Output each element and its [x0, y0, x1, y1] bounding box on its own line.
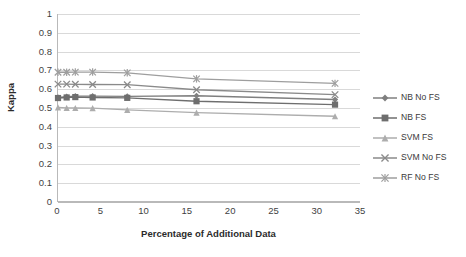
chart-legend: NB No FSNB FSSVM FSSVM No FSRF No FS [372, 88, 466, 188]
x-axis-title: Percentage of Additional Data [57, 228, 360, 239]
y-axis-tick-label: 1 [6, 9, 52, 19]
x-axis-tick-label: 15 [172, 206, 202, 216]
legend-item-label: RF No FS [401, 173, 439, 182]
data-point-marker-square [332, 102, 338, 108]
x-axis-tick-label: 5 [85, 206, 115, 216]
y-axis-title: Kappa [5, 68, 16, 128]
legend-item-label: NB No FS [401, 93, 440, 102]
x-axis-tick-label: 0 [42, 206, 72, 216]
legend-item-label: SVM FS [401, 133, 433, 142]
gridline [58, 202, 360, 203]
y-axis-tick-label: 0.8 [6, 47, 52, 57]
chart-container: 00.10.20.30.40.50.60.70.80.91 Kappa 0510… [0, 0, 466, 257]
legend-item-svm-fs[interactable]: SVM FS [372, 128, 466, 147]
data-point-marker-square [72, 94, 78, 100]
legend-swatch-triangle-icon [372, 132, 398, 144]
series-svm-fs [55, 104, 338, 119]
data-point-marker-square [90, 94, 96, 100]
legend-swatch-x-icon [372, 152, 398, 164]
legend-swatch-diamond-icon [372, 92, 398, 104]
x-axis-tick-label: 25 [258, 206, 288, 216]
legend-swatch-square-icon [372, 112, 398, 124]
y-axis-tick-label: 0.1 [6, 178, 52, 188]
series-layer [58, 14, 361, 202]
legend-item-label: NB FS [401, 113, 426, 122]
y-axis-tick-label: 0.9 [6, 28, 52, 38]
x-axis-tick-label: 20 [215, 206, 245, 216]
data-point-marker-square [193, 98, 199, 104]
data-point-marker-square [55, 95, 61, 101]
data-point-marker-square [64, 94, 70, 100]
legend-swatch-star-icon [372, 172, 398, 184]
plot-area [57, 14, 360, 202]
data-point-marker-square [124, 95, 130, 101]
legend-item-nb-no-fs[interactable]: NB No FS [372, 88, 466, 107]
x-axis-tick-label: 30 [302, 206, 332, 216]
x-axis-tick-label: 35 [345, 206, 375, 216]
data-point-marker-diamond [382, 94, 389, 101]
legend-item-label: SVM No FS [401, 153, 446, 162]
y-axis-tick-label: 0.2 [6, 159, 52, 169]
y-axis-tick-label: 0.3 [6, 141, 52, 151]
data-point-marker-square [382, 114, 389, 121]
x-axis-tick-label: 10 [129, 206, 159, 216]
legend-item-nb-fs[interactable]: NB FS [372, 108, 466, 127]
legend-item-rf-no-fs[interactable]: RF No FS [372, 168, 466, 187]
data-point-marker-diamond [193, 93, 199, 99]
legend-item-svm-no-fs[interactable]: SVM No FS [372, 148, 466, 167]
